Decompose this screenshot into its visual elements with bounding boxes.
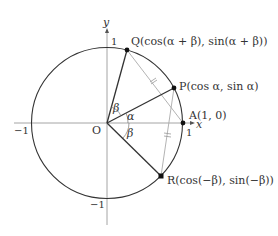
tick-label-y-neg: −1 xyxy=(90,199,105,210)
angle-label-beta-lower: β xyxy=(126,127,133,140)
radius-OR xyxy=(107,123,161,176)
tick-label-x-pos: 1 xyxy=(186,127,192,138)
point-R xyxy=(159,174,164,179)
angle-label-alpha: α xyxy=(127,110,135,123)
angle-label-beta-upper: β xyxy=(112,102,119,115)
tick-label-x-neg: −1 xyxy=(14,125,29,136)
origin-label: O xyxy=(92,124,101,137)
point-A xyxy=(181,121,186,126)
equal-mark-QA xyxy=(150,78,157,84)
label-R: R(cos(−β), sin(−β)) xyxy=(167,174,274,187)
label-P: P(cos α, sin α) xyxy=(179,80,259,93)
label-A: A(1, 0) xyxy=(188,109,227,122)
chord-PR xyxy=(161,88,174,176)
point-P xyxy=(172,86,177,91)
tick-label-y-pos: 1 xyxy=(111,36,117,47)
y-axis-label: y xyxy=(102,16,110,29)
label-Q: Q(cos(α + β), sin(α + β)) xyxy=(131,35,267,48)
point-Q xyxy=(125,48,130,53)
unit-circle-diagram: y x O 1 −1 −1 1 Q(cos(α + β), sin(α + β)… xyxy=(0,0,278,236)
